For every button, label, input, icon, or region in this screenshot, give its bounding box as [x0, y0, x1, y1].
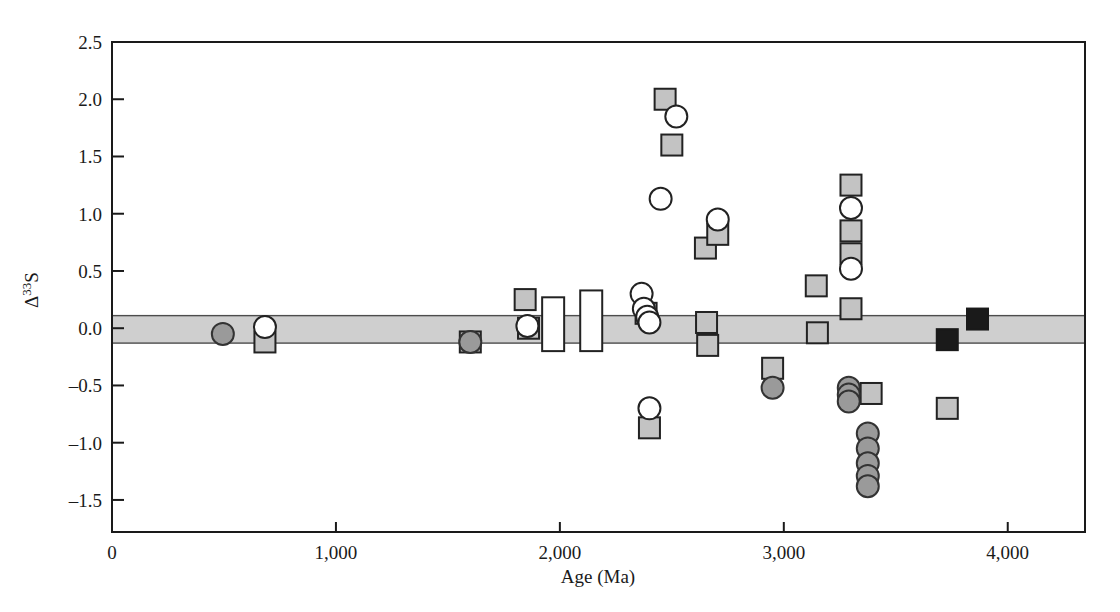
plot-frame — [112, 42, 1085, 532]
circle-data-marker — [762, 377, 784, 399]
range-bar-marker — [542, 297, 564, 351]
square-data-marker — [840, 298, 861, 319]
x-tick-label: 4,000 — [986, 542, 1029, 563]
range-bar-marker — [580, 290, 602, 351]
circle-data-marker — [638, 311, 660, 333]
y-tick-label: 0.5 — [78, 261, 102, 282]
svg-text:Δ33S: Δ33S — [19, 272, 42, 308]
y-tick-label: –0.5 — [68, 375, 102, 396]
y-tick-label: –1.0 — [68, 433, 102, 454]
circle-data-marker — [638, 397, 660, 419]
x-tick-label: 1,000 — [315, 542, 358, 563]
y-axis-title: Δ33S — [19, 272, 42, 308]
y-tick-label: 2.0 — [78, 89, 102, 110]
x-tick-label: 3,000 — [762, 542, 805, 563]
y-tick-label: 0.0 — [78, 318, 102, 339]
square-data-marker — [806, 275, 827, 296]
circle-data-marker — [707, 208, 729, 230]
y-tick-label: –1.5 — [68, 490, 102, 511]
data-points — [212, 89, 988, 497]
square-data-marker — [515, 289, 536, 310]
circle-data-marker — [212, 323, 234, 345]
square-data-marker — [937, 398, 958, 419]
plot-canvas: –1.5–1.0–0.50.00.51.01.52.02.501,0002,00… — [0, 0, 1120, 612]
circle-data-marker — [650, 188, 672, 210]
circle-data-marker — [857, 475, 879, 497]
square-data-marker — [967, 309, 988, 330]
square-data-marker — [937, 329, 958, 350]
circle-data-marker — [840, 197, 862, 219]
y-axis-title-s: S — [21, 272, 42, 283]
square-data-marker — [639, 417, 660, 438]
y-tick-label: 1.5 — [78, 146, 102, 167]
circle-data-marker — [665, 105, 687, 127]
circle-data-marker — [838, 390, 860, 412]
y-axis-title-delta: Δ — [21, 296, 42, 308]
circle-data-marker — [254, 316, 276, 338]
y-tick-label: 2.5 — [78, 32, 102, 53]
square-data-marker — [861, 383, 882, 404]
square-data-marker — [807, 322, 828, 343]
circle-data-marker — [840, 258, 862, 280]
circle-data-marker — [459, 331, 481, 353]
circle-data-marker — [516, 315, 538, 337]
square-data-marker — [661, 135, 682, 156]
x-axis-title: Age (Ma) — [561, 566, 635, 588]
axes-frame — [112, 42, 1085, 532]
x-tick-label: 2,000 — [538, 542, 581, 563]
square-data-marker — [840, 220, 861, 241]
square-data-marker — [762, 358, 783, 379]
y-tick-label: 1.0 — [78, 204, 102, 225]
sulfur-isotope-scatter-figure: –1.5–1.0–0.50.00.51.01.52.02.501,0002,00… — [0, 0, 1120, 612]
x-tick-label: 0 — [107, 542, 117, 563]
square-data-marker — [697, 335, 718, 356]
y-axis-title-superscript: 33 — [19, 283, 34, 296]
square-data-marker — [840, 175, 861, 196]
square-data-marker — [696, 312, 717, 333]
